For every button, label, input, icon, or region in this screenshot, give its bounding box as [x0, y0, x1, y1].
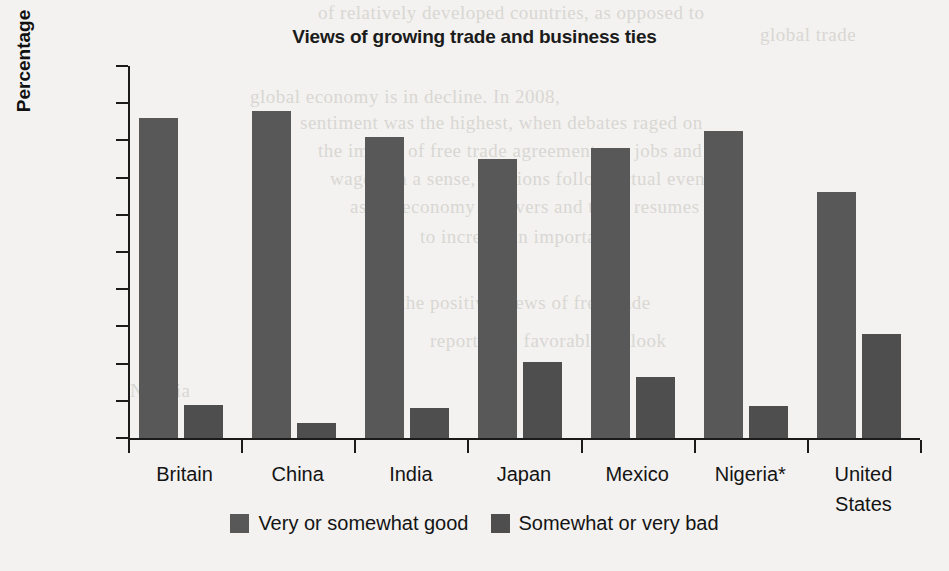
bar-united-states-good [817, 192, 856, 438]
ghost-text-line: global economy is in decline. In 2008, [250, 86, 560, 108]
x-axis-category-label: Mexico [581, 459, 694, 489]
x-axis-category-label: Japan [467, 459, 580, 489]
bar-japan-bad [523, 362, 562, 438]
x-axis-category-label: China [241, 459, 354, 489]
x-axis-tick [241, 440, 243, 453]
y-axis-tick [116, 363, 128, 365]
bar-nigeria-good [704, 131, 743, 438]
legend-label: Somewhat or very bad [519, 512, 719, 535]
legend-label: Very or somewhat good [258, 512, 468, 535]
x-axis-category-label-line: Britain [128, 459, 241, 489]
y-axis-tick [116, 214, 128, 216]
bar-india-good [365, 137, 404, 438]
y-axis-tick [116, 325, 128, 327]
x-axis-tick [807, 440, 809, 453]
y-axis-tick [116, 251, 128, 253]
x-axis-tick [920, 440, 922, 453]
legend-swatch-icon [230, 514, 249, 533]
x-axis-category-label: Britain [128, 459, 241, 489]
x-axis-category-label-line: Mexico [581, 459, 694, 489]
x-axis-tick [581, 440, 583, 453]
x-axis-category-label: UnitedStates [807, 459, 920, 519]
x-axis-tick [467, 440, 469, 453]
x-axis-category-label-line: Japan [467, 459, 580, 489]
y-axis-tick [116, 400, 128, 402]
bar-india-bad [410, 408, 449, 438]
legend-item-good: Very or somewhat good [230, 512, 468, 535]
bar-mexico-bad [636, 377, 675, 438]
y-axis-line [128, 66, 130, 440]
bar-nigeria-bad [749, 406, 788, 438]
bar-china-good [252, 111, 291, 438]
chart-title: Views of growing trade and business ties [0, 26, 949, 48]
chart-page: of relatively developed countries, as op… [0, 0, 949, 571]
legend-swatch-icon [491, 514, 510, 533]
x-axis-tick [694, 440, 696, 453]
y-axis-label: Percentage [13, 0, 35, 131]
bar-japan-good [478, 159, 517, 438]
bar-britain-good [139, 118, 178, 438]
x-axis-line [128, 438, 920, 440]
bar-britain-bad [184, 405, 223, 438]
legend-item-bad: Somewhat or very bad [491, 512, 719, 535]
ghost-text-line: reporting a favorable outlook [430, 330, 667, 352]
ghost-text-line: of relatively developed countries, as op… [318, 2, 704, 24]
y-axis-tick [116, 139, 128, 141]
bar-china-bad [297, 423, 336, 438]
x-axis-tick [354, 440, 356, 453]
x-axis-tick [128, 440, 130, 453]
bar-mexico-good [591, 148, 630, 438]
x-axis-category-label-line: United [807, 459, 920, 489]
x-axis-category-label-line: Nigeria* [694, 459, 807, 489]
x-axis-category-label: Nigeria* [694, 459, 807, 489]
y-axis-tick [116, 102, 128, 104]
ghost-text-line: sentiment was the highest, when debates … [300, 112, 703, 134]
x-axis-category-label-line: China [241, 459, 354, 489]
y-axis-tick [116, 177, 128, 179]
bar-united-states-bad [862, 334, 901, 438]
y-axis-tick [116, 65, 128, 67]
x-axis-category-label-line: India [354, 459, 467, 489]
x-axis-category-label: India [354, 459, 467, 489]
y-axis-tick [116, 437, 128, 439]
y-axis-tick [116, 288, 128, 290]
chart-legend: Very or somewhat goodSomewhat or very ba… [0, 512, 949, 535]
